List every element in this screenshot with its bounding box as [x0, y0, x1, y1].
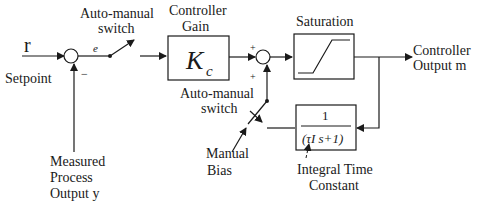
feedback-to-filter-arrow	[357, 57, 379, 128]
output-label-1: Controller	[413, 43, 471, 58]
gain-label-2: Gain	[182, 19, 209, 34]
plus-top: +	[250, 42, 256, 53]
switch2-label-2: switch	[201, 101, 238, 116]
manual-bias-label-1: Manual	[206, 146, 249, 161]
summing-junction-1	[64, 49, 78, 63]
gain-symbol: K	[185, 46, 205, 75]
integral-label-2: Constant	[309, 178, 359, 193]
setpoint-label: Setpoint	[5, 71, 52, 86]
switch2-label-1: Auto-manual	[180, 86, 254, 101]
plus-bottom: +	[250, 71, 256, 82]
saturation-label: Saturation	[296, 14, 354, 29]
summing-junction-2	[256, 50, 270, 64]
minus-sign: −	[81, 67, 88, 81]
measured-output-label: Measured	[50, 154, 105, 169]
setpoint-symbol: r	[24, 34, 31, 56]
error-symbol: e	[93, 42, 98, 54]
measured-output-label-2: Process	[50, 170, 93, 185]
switch2-contact-arrow	[250, 111, 262, 122]
switch1-label-1: Auto-manual	[80, 6, 154, 21]
gain-label-1: Controller	[169, 3, 227, 18]
manual-bias-label-2: Bias	[207, 163, 232, 178]
block-diagram: r Setpoint − Measured Process Output y e…	[0, 0, 480, 203]
integral-label-1: Integral Time	[297, 162, 373, 177]
switch1-label-2: switch	[98, 21, 135, 36]
gain-subscript: c	[206, 63, 213, 79]
auto-manual-switch-1[interactable]	[110, 40, 134, 56]
saturation-block	[294, 34, 354, 79]
output-label-2: Output m	[413, 58, 466, 73]
filter-numerator: 1	[322, 108, 329, 123]
filter-denominator: (τI s+1)	[302, 131, 343, 146]
measured-output-label-3: Output y	[50, 186, 99, 201]
